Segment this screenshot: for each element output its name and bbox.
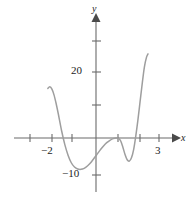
- x-axis-arrow-icon: [172, 134, 181, 143]
- y-tick-label-20: 20: [71, 65, 82, 76]
- y-axis-label: y: [92, 4, 96, 14]
- polynomial-curve: [48, 54, 148, 170]
- y-axis-arrow-icon: [92, 13, 101, 22]
- x-axis-label: x: [181, 133, 185, 143]
- graph-figure: −2 3 20 −10 x y: [0, 0, 194, 201]
- x-tick-label-3: 3: [155, 145, 161, 156]
- plot-canvas: [0, 0, 194, 201]
- y-tick-label-neg10: −10: [62, 168, 79, 179]
- x-tick-label-neg2: −2: [41, 145, 53, 156]
